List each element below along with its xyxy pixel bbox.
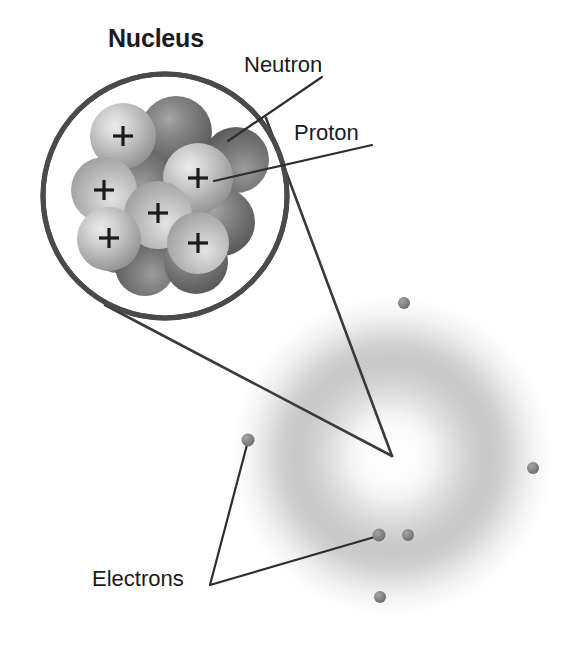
proton-label: Proton <box>294 122 359 144</box>
proton-particle <box>167 212 229 274</box>
electrons-leader-lines <box>210 441 378 585</box>
electron-dot <box>527 462 539 474</box>
electrons-label: Electrons <box>92 568 184 590</box>
annotation-layer <box>0 0 575 645</box>
nucleus-label: Nucleus <box>108 26 204 51</box>
atom-diagram: Nucleus Neutron Proton Electrons <box>0 0 575 645</box>
electron-dot <box>398 297 410 309</box>
electron-dot <box>402 529 414 541</box>
electron-dot <box>373 529 386 542</box>
proton-particle <box>77 207 141 271</box>
electron-dot <box>242 434 255 447</box>
electron-dot <box>374 591 386 603</box>
neutron-label: Neutron <box>244 54 322 76</box>
